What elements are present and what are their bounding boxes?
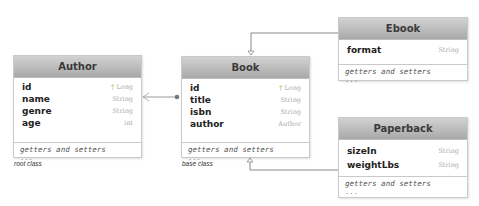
class-title: Paperback (339, 118, 467, 140)
attribute-row: id †Long (190, 82, 301, 94)
inheritance-arrow-icon (248, 51, 254, 55)
attribute-row: author Author (190, 118, 301, 130)
attribute-row: format String (347, 44, 459, 56)
class-author[interactable]: Author id †Long name String genre String… (13, 55, 142, 158)
class-title: Author (14, 56, 141, 78)
class-caption: root class (14, 160, 42, 167)
attribute-list: sizeIn String weightLbs String (339, 140, 467, 177)
method-list: getters and setters ... (339, 65, 467, 86)
attribute-row: id †Long (22, 81, 133, 93)
class-book[interactable]: Book id †Long title String isbn String a… (181, 56, 310, 158)
attribute-row: isbn String (190, 106, 301, 118)
attribute-row: title String (190, 94, 301, 106)
key-icon: † (111, 83, 115, 91)
class-title: Book (182, 57, 309, 79)
attribute-row: name String (22, 93, 133, 105)
class-paperback[interactable]: Paperback sizeIn String weightLbs String… (338, 117, 468, 198)
ebook-inheritance-line (251, 33, 338, 55)
attribute-row: age int (22, 117, 133, 129)
attribute-list: id †Long title String isbn String author… (182, 79, 309, 143)
association-end-dot-icon (175, 95, 180, 100)
class-ebook[interactable]: Ebook format String getters and setters … (338, 17, 468, 81)
attribute-row: sizeIn String (347, 144, 459, 158)
attribute-row: weightLbs String (347, 158, 459, 172)
key-icon: † (279, 84, 283, 92)
class-caption: base class (182, 160, 213, 167)
attribute-row: genre String (22, 105, 133, 117)
method-list: getters and setters ... (339, 177, 467, 198)
attribute-list: id †Long name String genre String age in… (14, 78, 141, 143)
attribute-list: format String (339, 40, 467, 65)
class-title: Ebook (339, 18, 467, 40)
